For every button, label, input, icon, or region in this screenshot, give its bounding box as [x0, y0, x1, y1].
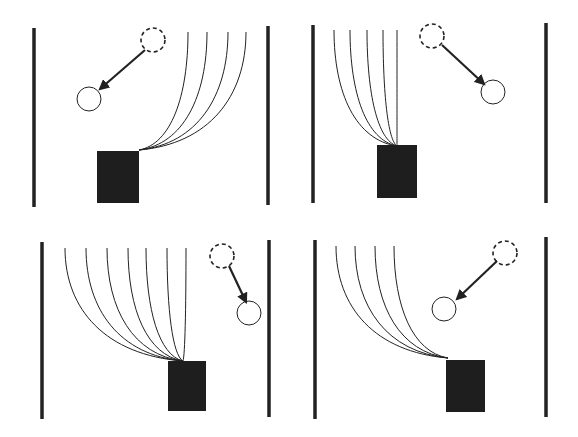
obstacle-box — [168, 361, 206, 411]
trajectory-curve — [65, 248, 183, 361]
target-position-circle — [481, 80, 505, 104]
trajectory-curve — [334, 30, 397, 146]
panel-bottom-right — [315, 237, 546, 419]
trajectory-curve — [167, 248, 183, 361]
trajectory-curve — [107, 248, 183, 361]
trajectory-curve — [183, 248, 186, 361]
trajectory-curve — [146, 248, 183, 361]
trajectory-curve — [336, 246, 448, 358]
panel-bottom-left — [42, 240, 269, 419]
obstacle-box — [377, 145, 417, 198]
trajectory-curve — [383, 30, 397, 146]
movement-arrow — [442, 45, 484, 84]
movement-arrow — [457, 261, 497, 299]
panel-top-right — [313, 23, 546, 203]
movement-arrow — [229, 266, 246, 302]
target-position-circle — [77, 87, 101, 111]
movement-arrow — [100, 50, 145, 89]
panel-top-left — [34, 26, 268, 207]
target-position-circle — [432, 297, 456, 321]
diagram-canvas — [0, 0, 578, 437]
start-position-circle — [420, 24, 444, 48]
target-position-circle — [237, 301, 261, 325]
obstacle-box — [97, 151, 139, 203]
obstacle-box — [446, 360, 485, 412]
start-position-circle — [210, 244, 234, 268]
start-position-circle — [141, 28, 165, 52]
